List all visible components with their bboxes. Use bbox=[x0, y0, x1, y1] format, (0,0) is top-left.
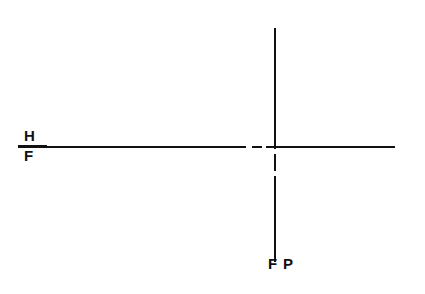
label-principal-plane-h: H bbox=[24, 128, 35, 143]
optical-diagram-svg bbox=[0, 0, 425, 294]
label-focal-point-f-left: F bbox=[24, 148, 33, 163]
diagram-canvas: H F F P bbox=[0, 0, 425, 294]
label-focal-point-f-bottom: F bbox=[268, 256, 277, 271]
label-principal-point-p-bottom: P bbox=[283, 256, 293, 271]
